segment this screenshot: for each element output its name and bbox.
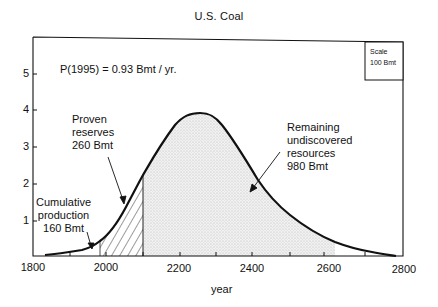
cumulative-line-1: Cumulative: [36, 196, 91, 209]
scale-value: 100 Bmt: [370, 57, 403, 68]
remaining-line-4: 980 Bmt: [287, 160, 352, 173]
p1995-annotation: P(1995) = 0.93 Bmt / yr.: [60, 63, 176, 76]
x-tick-2200: 2200: [159, 262, 199, 274]
remaining-line-2: undiscovered: [287, 134, 352, 147]
y-tick-3: 3: [17, 140, 29, 152]
scale-box: Scale 100 Bmt: [366, 43, 403, 80]
x-tick-2000: 2000: [86, 261, 126, 273]
x-tick-2600: 2600: [309, 262, 349, 274]
scale-label: Scale: [370, 46, 403, 57]
y-tick-4: 4: [17, 103, 29, 115]
remaining-line-3: resources: [287, 147, 352, 160]
x-tick-2800: 2800: [384, 263, 424, 275]
cumulative-line-2: production: [36, 209, 91, 222]
proven-line-2: reserves: [72, 126, 114, 139]
x-tick-1800: 1800: [13, 261, 53, 273]
cumulative-line-3: 160 Bmt: [36, 222, 91, 235]
x-axis-label: year: [211, 283, 232, 296]
proven-reserves-annotation: Proven reserves 260 Bmt: [72, 113, 114, 152]
remaining-line-1: Remaining: [287, 121, 352, 134]
proven-line-1: Proven: [72, 113, 114, 126]
y-tick-1: 1: [17, 214, 29, 226]
y-tick-5: 5: [17, 67, 29, 79]
x-tick-2400: 2400: [232, 262, 272, 274]
proven-line-3: 260 Bmt: [72, 139, 114, 152]
cumulative-production-annotation: Cumulative production 160 Bmt: [36, 196, 91, 235]
y-tick-2: 2: [17, 177, 29, 189]
remaining-resources-annotation: Remaining undiscovered resources 980 Bmt: [287, 121, 352, 173]
